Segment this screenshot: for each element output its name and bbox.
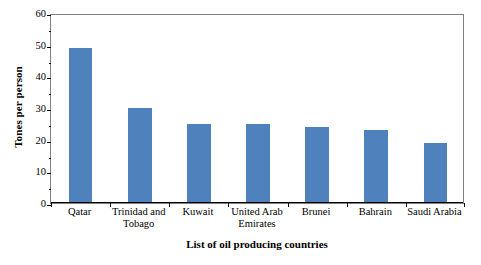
x-tick bbox=[464, 203, 465, 207]
y-tick-label: 10 bbox=[36, 167, 47, 178]
y-axis-tick-labels: 0102030405060 bbox=[24, 14, 46, 204]
x-axis-category-labels: QatarTrinidad and TobagoKuwaitUnited Ara… bbox=[50, 206, 464, 236]
x-category-label: Kuwait bbox=[168, 206, 227, 218]
bar bbox=[128, 108, 152, 203]
x-category-label: United Arab Emirates bbox=[227, 206, 286, 229]
y-axis-title-text: Tones per person bbox=[12, 66, 24, 148]
x-category-label: Brunei bbox=[287, 206, 346, 218]
y-tick-label: 20 bbox=[36, 135, 47, 146]
bar bbox=[424, 143, 448, 203]
x-category-label: Bahrain bbox=[346, 206, 405, 218]
bar bbox=[305, 127, 329, 203]
x-category-label: Saudi Arabia bbox=[405, 206, 464, 218]
y-tick-label: 40 bbox=[36, 72, 47, 83]
x-category-label: Trinidad and Tobago bbox=[109, 206, 168, 229]
x-axis-baseline bbox=[51, 202, 463, 203]
y-tick-label: 60 bbox=[36, 9, 47, 20]
bar bbox=[69, 48, 93, 203]
bar bbox=[187, 124, 211, 203]
y-tick-label: 0 bbox=[41, 199, 46, 210]
y-tick-label: 30 bbox=[36, 104, 47, 115]
bar bbox=[246, 124, 270, 203]
plot-area bbox=[50, 14, 464, 204]
bar bbox=[364, 130, 388, 203]
x-axis-title: List of oil producing countries bbox=[50, 238, 464, 250]
bar-chart-figure: Tones per person 0102030405060 QatarTrin… bbox=[0, 0, 481, 265]
x-category-label: Qatar bbox=[50, 206, 109, 218]
y-tick-label: 50 bbox=[36, 40, 47, 51]
bar-series bbox=[51, 15, 463, 203]
